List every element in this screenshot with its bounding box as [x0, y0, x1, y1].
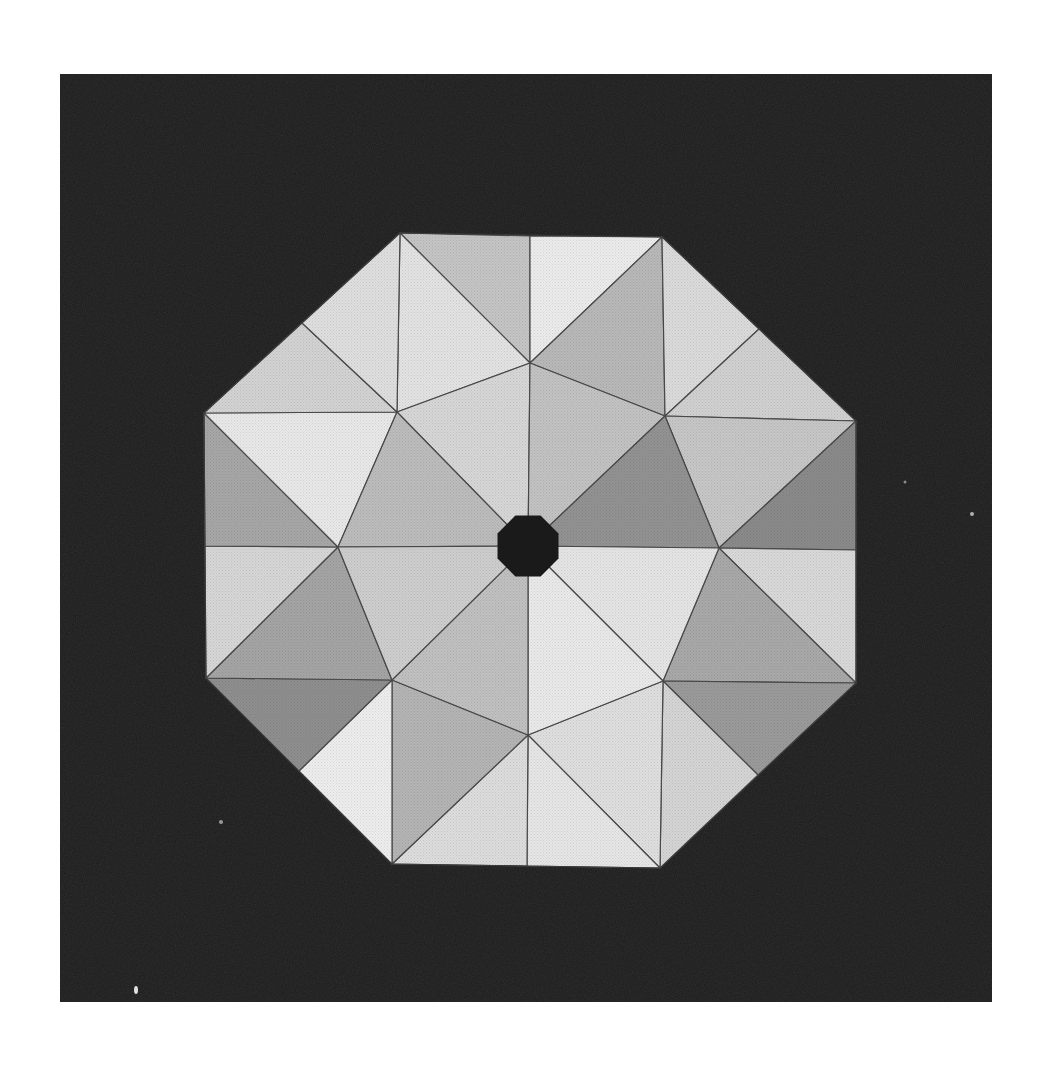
dust-mark [134, 986, 138, 994]
center-octagon [498, 516, 559, 577]
dust-mark [219, 820, 223, 824]
image-canvas [0, 0, 1058, 1076]
octagon-facet-illustration [0, 0, 1058, 1076]
dust-mark [904, 481, 907, 484]
dust-mark [970, 512, 974, 516]
